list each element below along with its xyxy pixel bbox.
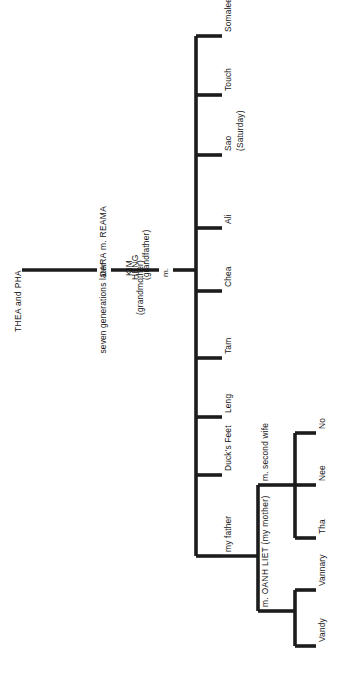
label-child-sao: Sao [223,135,233,151]
label-grandchild-vannary: Vannary [317,554,327,586]
label-child-tam: Tam [223,338,233,354]
label-child-my-father: my father [223,516,233,552]
label-grandchild-tha: Tha [317,519,327,534]
label-kim: KIM [124,260,134,276]
label-oanh-liet-my-mother: m. OANH LIET (my mother) [260,495,270,607]
label-child-leng: Leng [223,394,233,413]
label-grandchild-vandy: Vandy [317,617,327,642]
label-child-chea: Chea [223,266,233,287]
label-marriage-symbol: m. [161,268,170,277]
label-kim-note: (grandmother) [135,260,145,315]
label-child-ducks-feet: Duck's Feet [223,425,233,471]
label-thea-and-pha: THEA and PHA [13,270,23,332]
label-second-wife: m. second wife [260,423,270,481]
label-child-sao-note: (Saturday) [235,110,245,151]
label-child-ali: Ali [223,214,233,224]
label-child-somalee: Somalee [223,0,233,32]
family-tree-diagram: THEA and PHA seven generations later DAR… [0,0,341,695]
label-grandchild-nee: Nee [317,465,327,481]
label-grandchild-no: No [317,418,327,429]
label-dara-m-reama: DARA m. REAMA [98,206,108,277]
label-child-touch: Touch [223,68,233,91]
